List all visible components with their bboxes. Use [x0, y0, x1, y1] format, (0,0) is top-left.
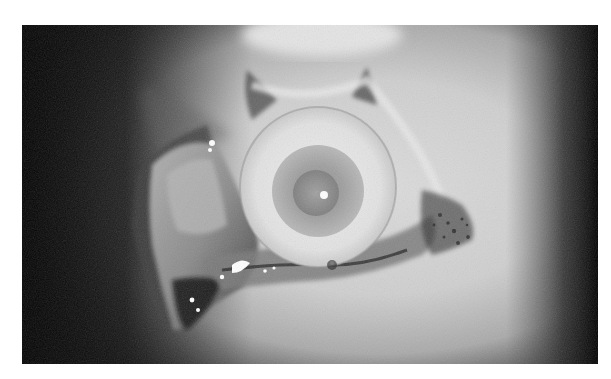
- clinical-eye-photo: close-up clinical photograph of an eye w…: [22, 25, 598, 364]
- photo-illustration: [22, 25, 598, 364]
